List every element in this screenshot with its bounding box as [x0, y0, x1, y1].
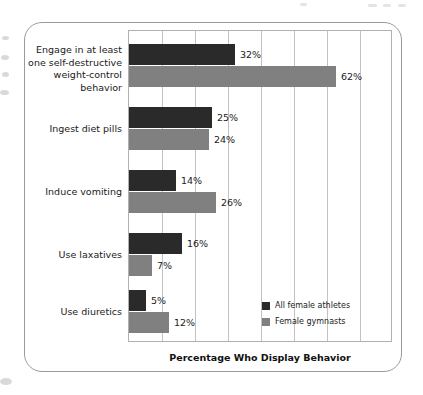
category-label-line: Use diuretics	[10, 306, 122, 319]
bar-chart: Engage in at least one self-destructive …	[0, 0, 423, 395]
bar-all-female-athletes	[129, 170, 176, 191]
bar-value-label: 16%	[187, 233, 208, 254]
bar-female-gymnasts	[129, 192, 216, 213]
bar-all-female-athletes	[129, 44, 235, 65]
bar-female-gymnasts	[129, 66, 336, 87]
legend-item-all-female-athletes: All female athletes	[262, 299, 350, 312]
bar-value-label: 62%	[341, 66, 362, 87]
category-label: Engage in at least one self-destructive …	[10, 44, 122, 94]
category-label-line: Use laxatives	[10, 249, 122, 262]
category-label: Use laxatives	[10, 249, 122, 262]
category-label-line: behavior	[10, 82, 122, 95]
bar-value-label: 5%	[151, 290, 166, 311]
bar-value-label: 14%	[181, 170, 202, 191]
category-label-line: Induce vomiting	[10, 186, 122, 199]
bar-all-female-athletes	[129, 290, 146, 311]
category-label-line: Engage in at least	[10, 44, 122, 57]
legend-label: All female athletes	[275, 299, 350, 312]
bar-group: Induce vomiting 14% 26%	[0, 170, 423, 216]
category-label-line: weight-control	[10, 69, 122, 82]
bar-value-label: 25%	[217, 107, 238, 128]
bar-group: Engage in at least one self-destructive …	[0, 44, 423, 90]
bar-value-label: 12%	[174, 312, 195, 333]
category-label: Use diuretics	[10, 306, 122, 319]
legend-label: Female gymnasts	[275, 315, 346, 328]
category-label-line: Ingest diet pills	[10, 123, 122, 136]
category-label: Induce vomiting	[10, 186, 122, 199]
category-label-line: one self-destructive	[10, 57, 122, 70]
bar-group: Ingest diet pills 25% 24%	[0, 107, 423, 153]
bar-all-female-athletes	[129, 233, 182, 254]
chart-legend: All female athletes Female gymnasts	[262, 299, 350, 331]
bar-female-gymnasts	[129, 255, 152, 276]
category-label: Ingest diet pills	[10, 123, 122, 136]
bar-female-gymnasts	[129, 129, 209, 150]
bar-female-gymnasts	[129, 312, 169, 333]
bar-all-female-athletes	[129, 107, 212, 128]
legend-item-female-gymnasts: Female gymnasts	[262, 315, 350, 328]
bar-group: Use diuretics 5% 12%	[0, 290, 423, 336]
x-axis-title: Percentage Who Display Behavior	[128, 352, 392, 363]
bar-value-label: 7%	[157, 255, 172, 276]
legend-swatch-icon	[262, 302, 270, 310]
bar-group: Use laxatives 16% 7%	[0, 233, 423, 279]
bar-value-label: 32%	[240, 44, 261, 65]
bar-value-label: 26%	[221, 192, 242, 213]
bar-value-label: 24%	[214, 129, 235, 150]
legend-swatch-icon	[262, 318, 270, 326]
